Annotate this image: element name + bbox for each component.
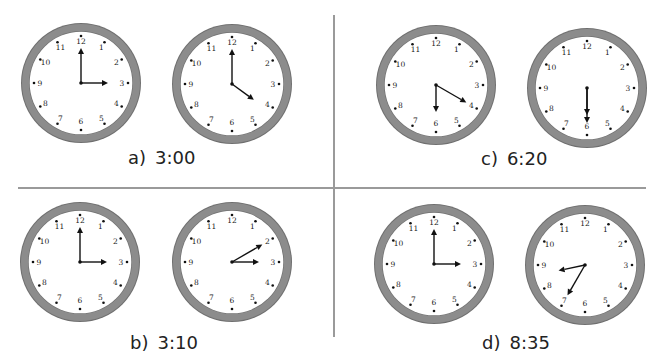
hour-dot	[386, 263, 389, 266]
hour-number: 6	[230, 118, 235, 127]
hour-number: 12	[227, 216, 237, 225]
hour-number: 11	[560, 225, 570, 234]
hour-number: 3	[271, 258, 276, 267]
hour-number: 2	[620, 63, 625, 72]
center-pin	[432, 262, 436, 266]
hour-number: 9	[38, 79, 43, 88]
center-pin	[79, 81, 83, 85]
hour-dot	[271, 284, 274, 287]
hour-number: 9	[189, 258, 194, 267]
hour-number: 6	[230, 296, 235, 305]
hour-number: 4	[618, 281, 623, 290]
panel-time: 3:10	[157, 332, 197, 353]
panel-time: 3:00	[155, 147, 195, 168]
hour-number: 4	[113, 278, 118, 287]
horizontal-divider	[18, 187, 646, 189]
hour-number: 12	[76, 37, 86, 46]
hour-dot	[545, 110, 548, 113]
panel-time: 6:20	[507, 148, 547, 169]
center-pin	[585, 86, 589, 90]
hour-number: 2	[114, 58, 119, 67]
hour-dot	[278, 83, 281, 86]
hour-dot	[626, 63, 629, 66]
hour-number: 6	[432, 298, 437, 307]
hour-number: 7	[209, 293, 214, 302]
panel-a-label: a)3:00	[128, 147, 195, 168]
hour-dot	[190, 106, 193, 109]
hour-number: 10	[40, 237, 50, 246]
panel-letter: b)	[130, 332, 148, 353]
hour-dot	[120, 105, 123, 108]
clock-face: 121234567891011	[170, 22, 294, 146]
clock-c-2: 121234567891011	[525, 26, 649, 150]
hour-number: 3	[120, 79, 125, 88]
hour-dot	[278, 261, 281, 264]
hour-dot	[584, 311, 587, 314]
clock-a-2: 121234567891011	[170, 22, 294, 146]
hour-number: 10	[41, 58, 51, 67]
hour-dot	[190, 284, 193, 287]
hour-dot	[633, 87, 636, 90]
center-pin	[230, 82, 234, 86]
hour-number: 1	[603, 225, 608, 234]
hour-number: 6	[78, 296, 83, 305]
hour-dot	[119, 284, 122, 287]
hour-number: 11	[207, 44, 217, 53]
hour-number: 2	[469, 60, 474, 69]
hour-number: 1	[250, 222, 255, 231]
hour-dot	[473, 239, 476, 242]
clock-d-2: 121234567891011	[523, 203, 647, 327]
hour-number: 6	[434, 119, 439, 128]
hour-number: 12	[75, 216, 85, 225]
hour-number: 11	[409, 224, 419, 233]
hour-number: 12	[429, 218, 439, 227]
clock-b-2: 121234567891011	[170, 200, 294, 324]
panel-letter: a)	[128, 147, 146, 168]
hour-number: 3	[624, 261, 629, 270]
center-pin	[434, 83, 438, 87]
hour-number: 12	[431, 39, 441, 48]
hour-number: 11	[562, 48, 572, 57]
hour-number: 8	[42, 278, 47, 287]
hour-number: 5	[98, 293, 103, 302]
hour-number: 8	[194, 100, 199, 109]
hour-number: 2	[265, 59, 270, 68]
hour-dot	[119, 237, 122, 240]
hour-number: 4	[265, 278, 270, 287]
hour-dot	[79, 308, 82, 311]
center-pin	[230, 260, 234, 264]
hour-dot	[38, 284, 41, 287]
hour-number: 1	[250, 44, 255, 53]
hour-number: 7	[209, 115, 214, 124]
hour-number: 2	[618, 240, 623, 249]
hour-number: 10	[545, 240, 555, 249]
hour-dot	[33, 82, 36, 85]
hour-dot	[231, 130, 234, 133]
hour-number: 3	[473, 260, 478, 269]
hour-number: 8	[398, 101, 403, 110]
hour-dot	[80, 129, 83, 132]
hour-dot	[271, 59, 274, 62]
hour-dot	[624, 287, 627, 290]
center-pin	[78, 260, 82, 264]
hour-dot	[480, 263, 483, 266]
clock-face: 121234567891011	[19, 21, 143, 145]
hour-dot	[626, 110, 629, 113]
hour-number: 7	[411, 295, 416, 304]
hour-dot	[435, 131, 438, 134]
hour-number: 1	[454, 45, 459, 54]
clock-face: 121234567891011	[374, 23, 498, 147]
hour-dot	[126, 261, 129, 264]
panel-d-label: d)8:35	[482, 332, 550, 353]
hour-dot	[32, 261, 35, 264]
hour-dot	[631, 264, 634, 267]
hour-dot	[184, 261, 187, 264]
panel-time: 8:35	[509, 332, 549, 353]
hour-dot	[231, 308, 234, 311]
clock-a-1: 121234567891011	[19, 21, 143, 145]
hour-number: 11	[56, 43, 66, 52]
vertical-divider	[333, 15, 335, 337]
hour-dot	[271, 237, 274, 240]
panel-b-label: b)3:10	[130, 332, 198, 353]
hour-dot	[392, 286, 395, 289]
